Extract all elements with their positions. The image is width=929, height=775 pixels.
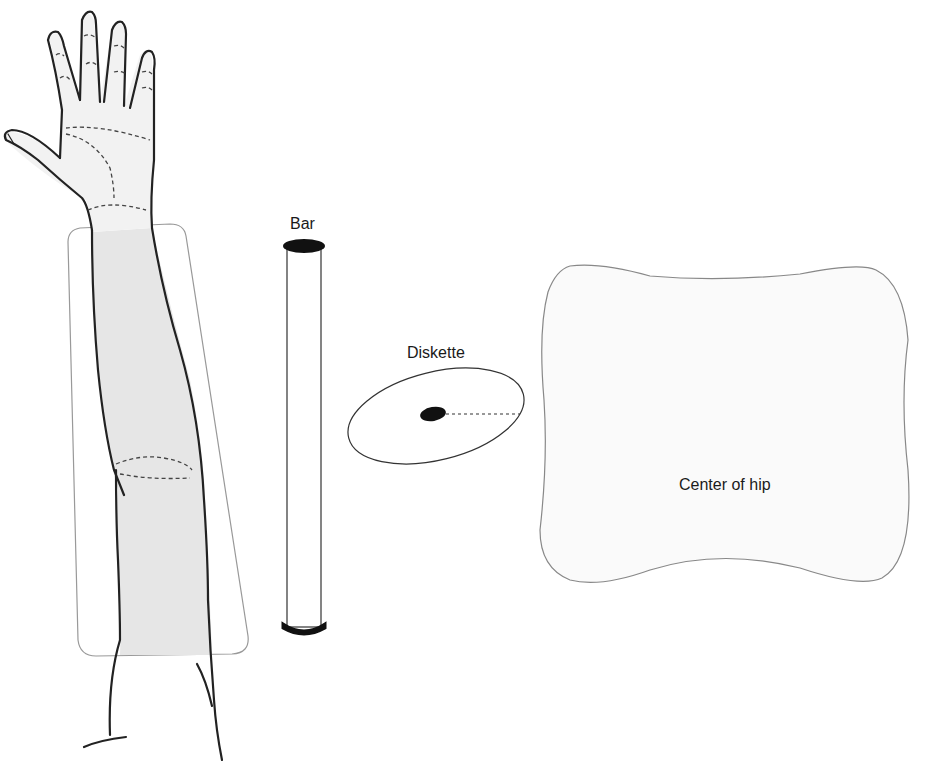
bar-top-cap	[283, 239, 325, 253]
hand-fill	[6, 14, 154, 232]
diskette-label: Diskette	[407, 344, 465, 362]
hip-label: Center of hip	[679, 476, 771, 494]
bar-label: Bar	[290, 215, 315, 233]
diagram-canvas	[0, 0, 929, 775]
hip-object	[540, 265, 909, 582]
bar-object	[283, 239, 325, 634]
diskette-object	[338, 352, 534, 481]
